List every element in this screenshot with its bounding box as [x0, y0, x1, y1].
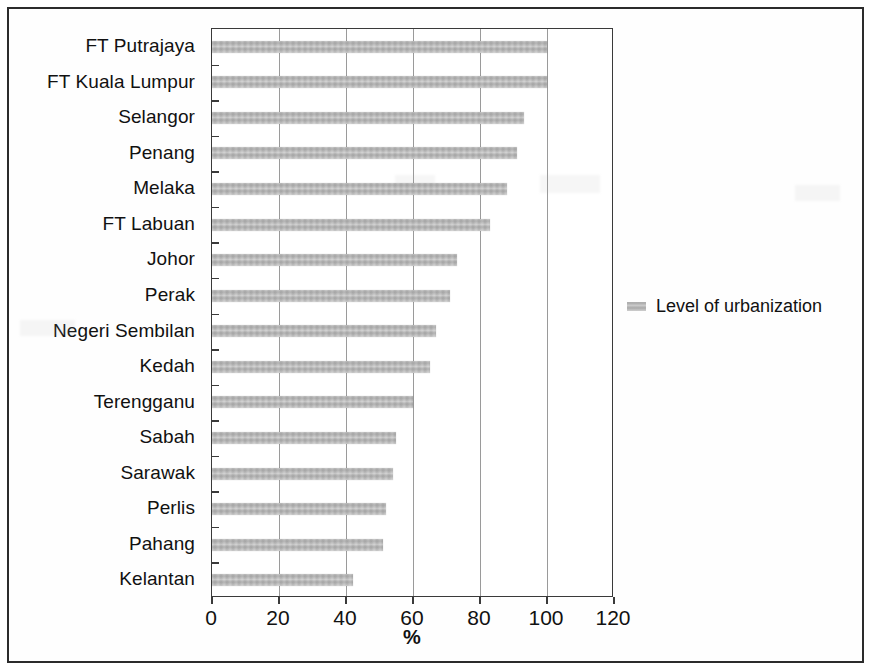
x-axis-tick: [211, 597, 213, 604]
category-tick: [212, 349, 219, 351]
category-label: FT Putrajaya: [85, 28, 195, 64]
bar: [212, 539, 383, 551]
bar-row: [212, 278, 612, 314]
category-label: Kelantan: [119, 561, 195, 597]
x-axis-title: %: [211, 626, 613, 649]
category-label: Negeri Sembilan: [53, 313, 195, 349]
category-tick: [212, 65, 219, 67]
category-label: Selangor: [118, 99, 195, 135]
bar: [212, 361, 430, 373]
category-label: Terengganu: [94, 384, 195, 420]
category-tick: [212, 385, 219, 387]
bar-row: [212, 491, 612, 527]
bar: [212, 325, 436, 337]
category-label: Pahang: [129, 526, 195, 562]
category-tick: [212, 562, 219, 564]
bar: [212, 574, 353, 586]
legend-swatch-icon: [627, 302, 646, 311]
scan-artifact: [795, 185, 840, 201]
bar-row: [212, 171, 612, 207]
category-tick: [212, 100, 219, 102]
category-tick: [212, 527, 219, 529]
bar: [212, 76, 547, 88]
bar: [212, 396, 413, 408]
category-label: Johor: [147, 241, 195, 277]
bar-row: [212, 420, 612, 456]
bar: [212, 112, 524, 124]
bar: [212, 468, 393, 480]
bar: [212, 290, 450, 302]
category-label: Perak: [145, 277, 195, 313]
bar: [212, 254, 457, 266]
chart-legend: Level of urbanization: [627, 296, 822, 317]
category-tick: [212, 242, 219, 244]
bar-row: [212, 100, 612, 136]
category-label: Sarawak: [120, 455, 195, 491]
bar-row: [212, 562, 612, 598]
bar: [212, 183, 507, 195]
bar-row: [212, 136, 612, 172]
category-tick: [212, 420, 219, 422]
bar-row: [212, 65, 612, 101]
x-axis-tick: [613, 597, 615, 604]
category-tick: [212, 171, 219, 173]
plot-area: [211, 28, 613, 597]
bar-row: [212, 29, 612, 65]
bar-series: [212, 29, 612, 596]
x-axis-tick: [479, 597, 481, 604]
category-label: Penang: [129, 135, 195, 171]
bar: [212, 219, 490, 231]
bar: [212, 432, 396, 444]
bar-row: [212, 207, 612, 243]
category-tick: [212, 136, 219, 138]
category-label: FT Labuan: [103, 206, 195, 242]
category-tick: [212, 456, 219, 458]
bar-row: [212, 314, 612, 350]
category-tick: [212, 314, 219, 316]
bar: [212, 503, 386, 515]
bar-row: [212, 527, 612, 563]
bar-row: [212, 385, 612, 421]
bar: [212, 41, 547, 53]
scanned-page: FT PutrajayaFT Kuala LumpurSelangorPenan…: [0, 0, 871, 671]
x-axis-tick: [546, 597, 548, 604]
bar-row: [212, 242, 612, 278]
bar-row: [212, 456, 612, 492]
legend-label: Level of urbanization: [656, 296, 822, 317]
category-label: FT Kuala Lumpur: [47, 64, 195, 100]
category-label: Melaka: [133, 170, 195, 206]
category-tick: [212, 278, 219, 280]
category-label: Sabah: [140, 419, 195, 455]
category-label: Kedah: [140, 348, 195, 384]
category-label: Perlis: [147, 490, 195, 526]
bar: [212, 147, 517, 159]
bar-chart: FT PutrajayaFT Kuala LumpurSelangorPenan…: [0, 0, 871, 671]
x-axis-tick: [412, 597, 414, 604]
category-tick: [212, 207, 219, 209]
bar-row: [212, 349, 612, 385]
category-tick: [212, 491, 219, 493]
category-axis-labels: FT PutrajayaFT Kuala LumpurSelangorPenan…: [0, 28, 203, 597]
x-axis-tick: [278, 597, 280, 604]
x-axis-tick: [345, 597, 347, 604]
